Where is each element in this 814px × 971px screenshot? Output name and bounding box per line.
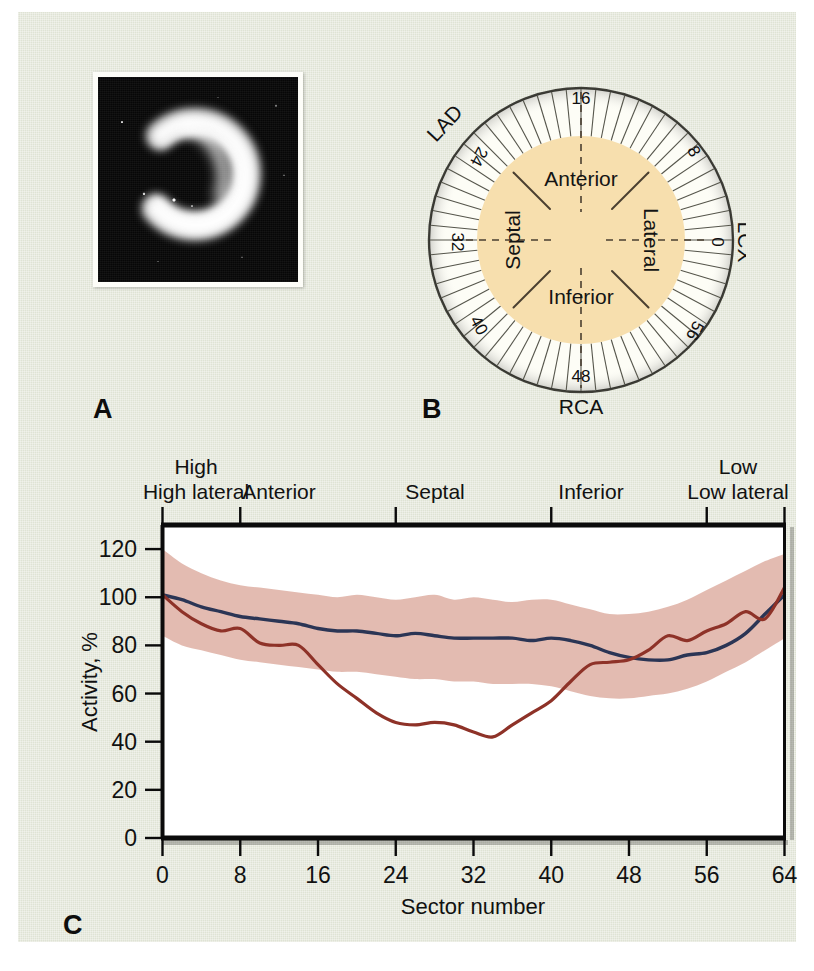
plot-drop-shadow [163, 840, 788, 845]
x-tick-label: 56 [694, 862, 720, 888]
x-tick-label: 0 [156, 862, 169, 888]
plot-drop-shadow-right [790, 527, 794, 840]
polar-label-septal: Septal [501, 210, 524, 270]
polar-label-lcx: LCX [734, 222, 746, 263]
y-tick-label: 80 [111, 632, 137, 658]
panel-b-polar-sector-diagram: Anterior Inferior Septal Lateral 16 8 0 … [416, 62, 746, 422]
panel-b-label: B [422, 394, 441, 425]
polar-label-inferior: Inferior [548, 285, 613, 308]
x-tick-label: 32 [461, 862, 487, 888]
y-tick-label: 20 [111, 777, 137, 803]
x-tick-label: 8 [234, 862, 247, 888]
region-label-high-lateral-line1: High [174, 455, 217, 478]
region-boundary-ticks [163, 507, 785, 525]
region-label-anterior: Anterior [242, 480, 316, 503]
x-axis-title: Sector number [401, 894, 545, 919]
polar-label-anterior: Anterior [544, 167, 618, 190]
x-tick-label: 48 [616, 862, 642, 888]
polar-label-lad: LAD [422, 100, 467, 146]
region-label-low-lateral: Low lateral [687, 480, 789, 503]
y-axis-title: Activity, % [77, 632, 102, 732]
region-label-low-lateral-line1: Low [719, 455, 758, 478]
polar-tick-0: 0 [708, 237, 727, 246]
x-tick-label: 16 [305, 862, 331, 888]
panel-c-label: C [63, 910, 82, 941]
figure-root: A [0, 0, 814, 971]
y-tick-label: 60 [111, 681, 137, 707]
y-tick-label: 100 [99, 584, 137, 610]
panel-a-spect-image [93, 72, 303, 287]
x-tick-label: 64 [772, 862, 798, 888]
x-axis-tick-labels: 0816243240485664 [156, 862, 797, 888]
region-label-septal: Septal [405, 480, 465, 503]
y-tick-label: 120 [99, 536, 137, 562]
panel-c-activity-chart: High High lateral Anterior Septal Inferi… [63, 452, 803, 922]
y-tick-label: 0 [124, 825, 137, 851]
figure-background: A [18, 12, 796, 942]
polar-label-lateral: Lateral [640, 208, 663, 272]
y-axis-tick-labels: 020406080100120 [99, 536, 137, 851]
polar-tick-48: 48 [572, 367, 591, 386]
panel-a-label: A [93, 394, 112, 425]
polar-label-rca: RCA [559, 395, 603, 418]
region-label-high-lateral: High lateral [143, 480, 249, 503]
polar-tick-32: 32 [448, 233, 467, 252]
polar-tick-16: 16 [572, 89, 591, 108]
y-tick-label: 40 [111, 729, 137, 755]
spect-myocardial-perfusion-image [98, 77, 298, 282]
x-tick-label: 40 [538, 862, 564, 888]
x-tick-label: 24 [383, 862, 409, 888]
y-axis-ticks [145, 549, 163, 838]
region-label-inferior: Inferior [558, 480, 623, 503]
spect-grain-texture [98, 77, 298, 282]
